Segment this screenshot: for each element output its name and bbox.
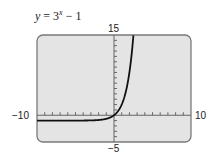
x-min-label: −10 xyxy=(12,110,29,121)
x-max-label: 10 xyxy=(195,110,207,121)
y-min-label: −5 xyxy=(108,143,120,154)
graph-canvas: 15 −5 −10 10 xyxy=(0,0,217,154)
y-max-label: 15 xyxy=(108,23,120,34)
